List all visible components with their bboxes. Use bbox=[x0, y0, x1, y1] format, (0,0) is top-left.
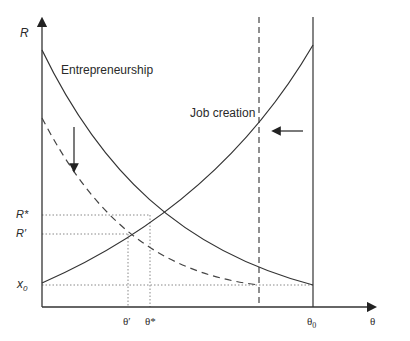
x-axis-label: θ bbox=[370, 315, 375, 327]
theta-star-label: θ* bbox=[145, 315, 156, 327]
y-axis-label: R bbox=[20, 26, 29, 40]
theta-prime-label: θ′ bbox=[123, 315, 131, 327]
entrepreneurship-curve bbox=[42, 50, 313, 285]
job-creation-curve bbox=[42, 45, 313, 283]
job-creation-label: Job creation bbox=[190, 106, 255, 120]
r-star-label: R* bbox=[16, 208, 28, 220]
theta0-label: θ0 bbox=[307, 315, 316, 330]
theta0-subscript: 0 bbox=[312, 321, 316, 330]
r-prime-label: R′ bbox=[16, 227, 26, 239]
x0-label: x0 bbox=[17, 277, 27, 293]
entrepreneurship-label: Entrepreneurship bbox=[61, 63, 153, 77]
x0-subscript: 0 bbox=[23, 284, 27, 293]
chart-canvas bbox=[0, 0, 410, 341]
guide-lines bbox=[42, 215, 313, 307]
